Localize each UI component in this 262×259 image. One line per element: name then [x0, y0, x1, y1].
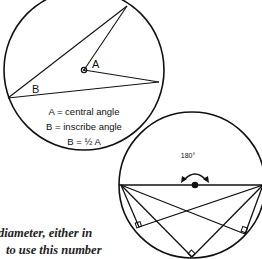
semicircle-diagram: 180°: [119, 112, 262, 258]
radius-to-top-point: [84, 6, 127, 70]
center-point: [192, 182, 199, 189]
legend-line-1: A = central angle: [48, 106, 119, 117]
legend-line-2: B = inscribe angle: [46, 121, 122, 132]
inscribed-angle-diagram: A B A = central angle B = inscribe angle…: [4, 0, 164, 150]
body-text-line-2: to use this number: [6, 243, 102, 257]
body-text-line-1: diameter, either in: [0, 226, 92, 240]
angle-label-b: B: [32, 83, 39, 95]
right-angle-marker-3: [241, 226, 247, 232]
chord-right-to-p1: [139, 185, 262, 227]
chord-top-to-left: [8, 6, 127, 98]
chord-left-to-right: [8, 82, 159, 98]
center-point-dot: [83, 69, 85, 71]
arc-label-180: 180°: [181, 152, 196, 159]
radius-to-right-point: [84, 70, 159, 82]
double-arrow-icon: [184, 174, 206, 180]
chord-right-to-p2: [192, 185, 262, 257]
legend-line-3: B = ½ A: [67, 136, 101, 147]
angle-label-a: A: [92, 58, 100, 70]
chord-right-to-p3: [245, 185, 262, 234]
geometry-figure: A B A = central angle B = inscribe angle…: [0, 0, 262, 259]
